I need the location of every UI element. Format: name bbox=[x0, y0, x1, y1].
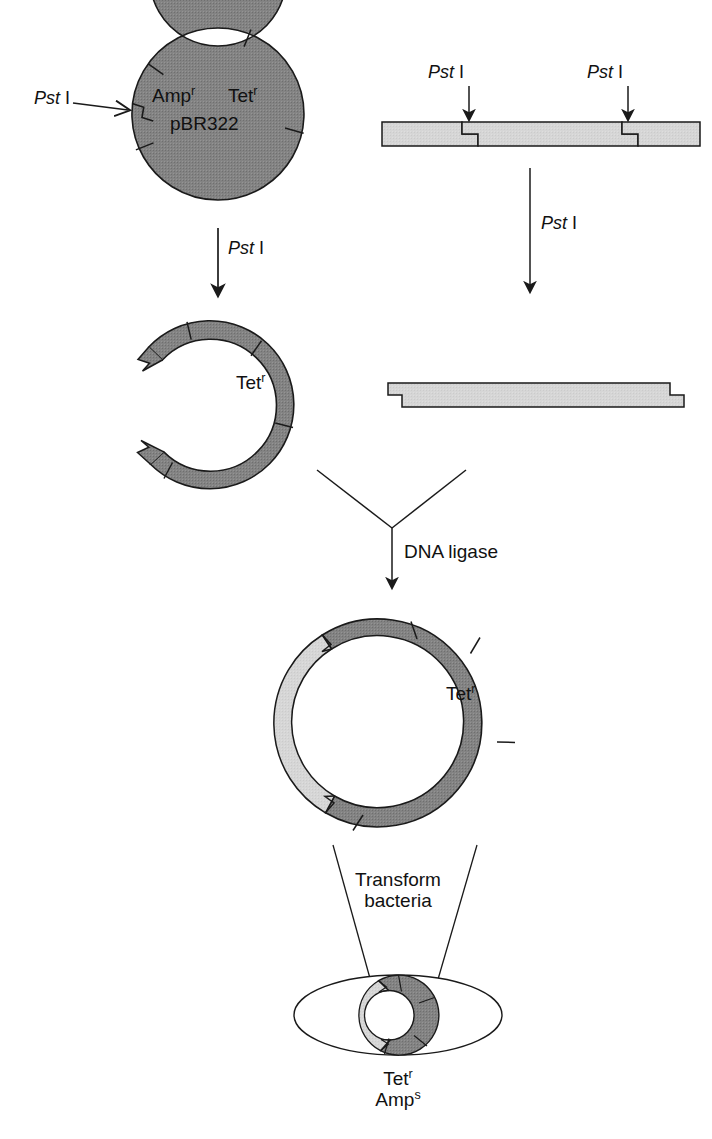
label-dna-ligase: DNA ligase bbox=[404, 541, 498, 562]
label-amp-resistance: Ampr bbox=[152, 85, 195, 106]
label-phenotype-result: Tetr Amps bbox=[338, 1068, 458, 1111]
recombinant-plasmid bbox=[274, 619, 515, 831]
molecular-cloning-diagram bbox=[0, 0, 712, 1139]
label-transform-bacteria: Transform bacteria bbox=[318, 869, 478, 912]
donor-dna-linear bbox=[382, 86, 700, 146]
label-tet-resistance-recombinant: Tetr bbox=[446, 683, 476, 704]
label-pst-i-digest-donor: Pst I bbox=[541, 213, 577, 233]
label-pst-i-donor-right: Pst I bbox=[587, 62, 623, 82]
label-tet-resistance-cut-vector: Tetr bbox=[236, 372, 266, 393]
donor-dna-middle-segment bbox=[462, 122, 638, 146]
transform-line-2: bacteria bbox=[318, 890, 478, 911]
recombinant-vector-arc bbox=[322, 619, 482, 827]
phenotype-tet: Tetr bbox=[338, 1068, 458, 1089]
label-tet-resistance-vector: Tetr bbox=[228, 85, 258, 106]
transformed-bacterium bbox=[294, 975, 502, 1055]
label-pst-i-vector-cut-site: Pst I bbox=[34, 88, 70, 108]
label-pst-i-donor-left: Pst I bbox=[428, 62, 464, 82]
label-plasmid-name: pBR322 bbox=[170, 113, 239, 134]
recombinant-insert-arc bbox=[274, 635, 335, 813]
ligation-converge-lines bbox=[317, 470, 466, 528]
transform-line-1: Transform bbox=[318, 869, 478, 890]
figure-canvas: Pst I Ampr Tetr pBR322 Pst I Pst I Pst I… bbox=[0, 0, 712, 1139]
vector-plasmid-cut-open bbox=[138, 321, 294, 489]
phenotype-amp: Amps bbox=[338, 1089, 458, 1110]
cut-vector-body bbox=[149, 321, 294, 489]
excised-dna-fragment bbox=[386, 382, 684, 407]
excised-fragment-body bbox=[388, 383, 684, 407]
pst-i-pointer-arrow bbox=[73, 103, 128, 110]
label-pst-i-digest-vector: Pst I bbox=[228, 238, 264, 258]
